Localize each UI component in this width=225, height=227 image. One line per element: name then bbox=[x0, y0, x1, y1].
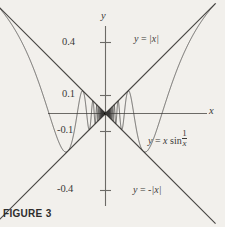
figure-caption: FIGURE 3 bbox=[3, 208, 52, 219]
osc-coef: x bbox=[163, 135, 167, 146]
oscillating-curve-label: y = x sin1x bbox=[148, 130, 187, 149]
figure-container: 0.4 0.1 -0.1 -0.4 y x y = |x| y = x sin1… bbox=[0, 0, 225, 227]
y-tick-label-0-4: 0.4 bbox=[62, 37, 75, 48]
osc-frac-denominator: x bbox=[182, 138, 188, 148]
y-axis-label: y bbox=[101, 11, 106, 22]
axes-group bbox=[48, 26, 207, 206]
upper-envelope-label: y = |x| bbox=[134, 34, 159, 44]
plot-canvas bbox=[0, 0, 225, 227]
upper-envelope-rhs: |x| bbox=[149, 33, 159, 44]
upper-envelope-eq: = bbox=[141, 33, 147, 44]
y-tick-label-0-1: 0.1 bbox=[62, 89, 75, 100]
lower-envelope-rhs: |x| bbox=[151, 184, 161, 195]
osc-frac-numerator: 1 bbox=[182, 129, 188, 138]
x-axis-label: x bbox=[209, 106, 214, 117]
lower-envelope-label: y = -|x| bbox=[133, 185, 161, 195]
envelope-upper-curve bbox=[0, 3, 216, 113]
lower-envelope-lhs: y bbox=[133, 184, 137, 195]
osc-eq: = bbox=[155, 135, 161, 146]
y-tick-label-neg-0-4: -0.4 bbox=[57, 184, 73, 195]
y-tick-label-neg-0-1: -0.1 bbox=[57, 125, 73, 136]
osc-lhs: y bbox=[148, 135, 152, 146]
osc-fn: sin bbox=[170, 135, 182, 146]
osc-fraction: 1x bbox=[182, 129, 188, 148]
lower-envelope-eq: = bbox=[140, 184, 146, 195]
envelope-upper-path bbox=[0, 3, 216, 113]
